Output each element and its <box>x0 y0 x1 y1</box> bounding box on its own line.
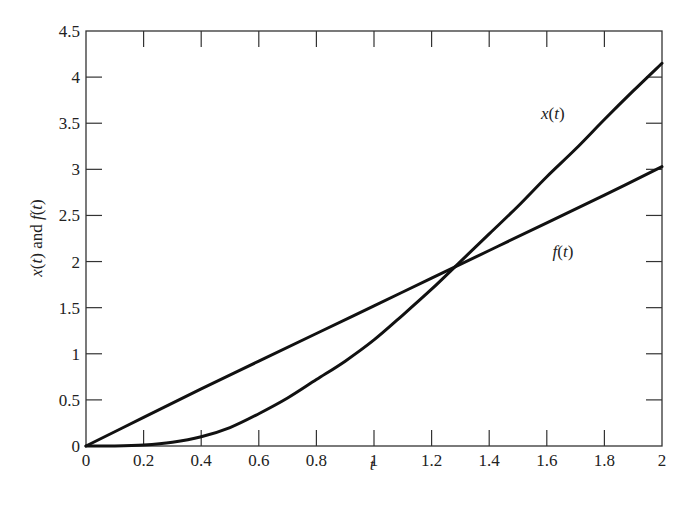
y-axis-label: x(t) and f(t) <box>27 199 46 277</box>
y-tick-label: 4.5 <box>59 22 80 41</box>
x-tick-label: 0 <box>82 451 91 470</box>
y-tick-label: 1 <box>72 345 81 364</box>
x-tick-label: 0.4 <box>191 451 213 470</box>
x-tick-label: 0.6 <box>248 451 269 470</box>
x-tick-label: 1.2 <box>421 451 442 470</box>
y-tick-label: 1.5 <box>59 299 80 318</box>
y-tick-label: 4 <box>72 68 81 87</box>
axis-ticks <box>86 31 662 446</box>
y-tick-label: 3 <box>72 160 81 179</box>
series-labels: x(t)f(t) <box>540 104 573 261</box>
series-lines <box>86 63 662 446</box>
chart: 00.20.40.60.811.21.41.61.82 00.511.522.5… <box>0 0 680 506</box>
series-label-1: f(t) <box>553 242 574 261</box>
plot-frame-rect <box>86 31 662 446</box>
x-tick-label: 1.6 <box>536 451 557 470</box>
y-tick-label: 2.5 <box>59 206 80 225</box>
x-tick-label: 0.8 <box>306 451 327 470</box>
plot-frame <box>86 31 662 446</box>
y-tick-label: 0 <box>72 437 81 456</box>
series-label-0: x(t) <box>540 104 565 123</box>
y-tick-label: 2 <box>72 253 81 272</box>
x-tick-label: 2 <box>658 451 667 470</box>
y-tick-label: 0.5 <box>59 391 80 410</box>
x-tick-label: 0.2 <box>133 451 154 470</box>
y-tick-label: 3.5 <box>59 114 80 133</box>
x-tick-label: 1.4 <box>479 451 501 470</box>
series-line-1 <box>86 167 662 446</box>
series-line-0 <box>86 63 662 446</box>
y-tick-labels: 00.511.522.533.544.5 <box>59 22 81 456</box>
x-tick-label: 1.8 <box>594 451 615 470</box>
